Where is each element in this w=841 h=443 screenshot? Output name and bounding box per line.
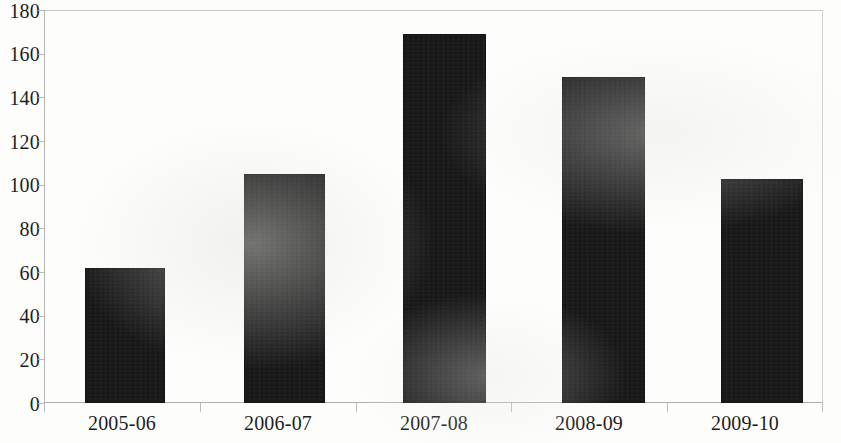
y-axis-label: 100 [0,175,40,195]
y-axis-label: 40 [0,306,40,326]
y-axis-tick [38,54,45,55]
x-axis-label: 2008-09 [511,410,667,436]
y-axis-tick [38,97,45,98]
x-axis-label: 2009-10 [667,410,823,436]
bar[interactable] [85,268,165,403]
y-axis: 180 160 140 120 100 80 60 40 20 0 [0,0,40,443]
x-axis-label: 2005-06 [44,410,200,436]
y-axis-label: 60 [0,263,40,283]
y-axis-tick [38,359,45,360]
bars-layer [0,0,841,443]
y-axis-tick [38,272,45,273]
y-axis-label: 0 [0,394,40,414]
y-axis-label: 140 [0,88,40,108]
x-axis-label: 2006-07 [200,410,356,436]
bar[interactable] [721,179,803,403]
bar[interactable] [403,34,486,403]
y-axis-label: 180 [0,1,40,21]
y-axis-tick [38,141,45,142]
bar[interactable] [244,174,325,403]
y-axis-label: 120 [0,132,40,152]
y-axis-tick [38,185,45,186]
y-axis-tick [38,316,45,317]
y-axis-label: 160 [0,44,40,64]
bar-chart: 180 160 140 120 100 80 60 40 20 0 2005-0… [0,0,841,443]
y-axis-label: 80 [0,219,40,239]
x-axis: 2005-06 2006-07 2007-08 2008-09 2009-10 [44,410,823,440]
x-axis-label: 2007-08 [356,410,512,436]
y-axis-label: 20 [0,350,40,370]
y-axis-tick [38,228,45,229]
y-axis-tick [38,10,45,11]
bar[interactable] [562,77,645,403]
